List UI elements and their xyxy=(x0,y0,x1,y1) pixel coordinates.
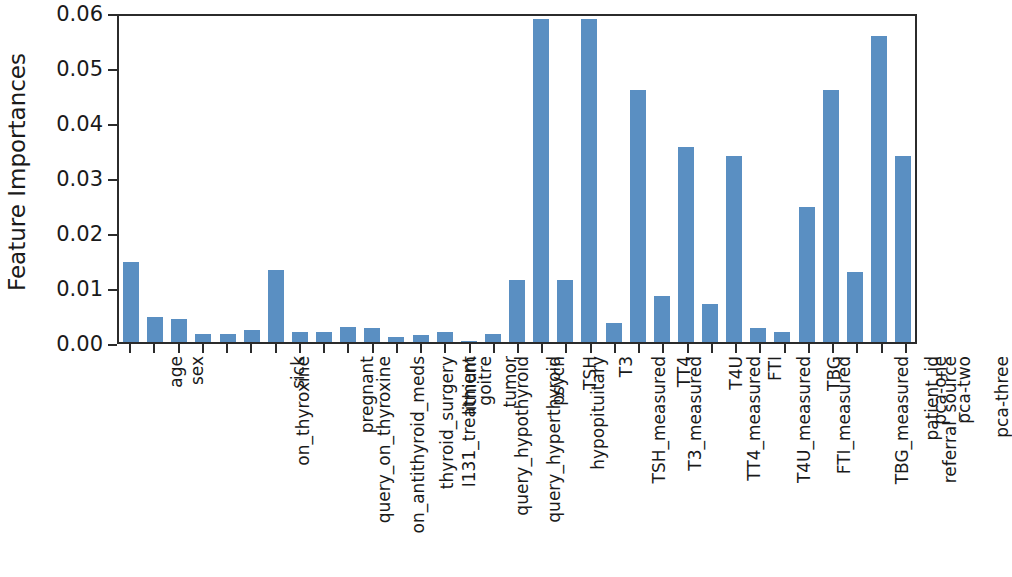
x-tick-mark xyxy=(881,344,883,353)
bar-slot xyxy=(529,16,553,342)
bar xyxy=(847,272,863,342)
bar-slot xyxy=(843,16,867,342)
bar-slot xyxy=(216,16,240,342)
x-tick-mark xyxy=(687,344,689,353)
bar xyxy=(244,330,260,342)
x-tick-mark xyxy=(202,344,204,353)
x-tick-label: on_antithyroid_meds xyxy=(411,356,428,533)
x-tick-mark xyxy=(541,344,543,353)
bar xyxy=(774,332,790,342)
x-tick-mark xyxy=(759,344,761,353)
y-tick-mark xyxy=(108,289,117,291)
x-tick-label: T3 xyxy=(618,356,635,377)
bar xyxy=(147,317,163,342)
x-tick-label: pregnant xyxy=(359,356,376,433)
y-tick-label: 0.05 xyxy=(18,57,103,81)
y-tick-mark xyxy=(108,124,117,126)
bar xyxy=(220,334,236,342)
x-tick-label: thyroid_surgery xyxy=(439,356,456,489)
x-tick-mark xyxy=(444,344,446,353)
bar-slot xyxy=(119,16,143,342)
bar xyxy=(123,262,139,342)
bar-slot xyxy=(674,16,698,342)
x-tick-label: T4U xyxy=(727,356,744,390)
y-tick-mark xyxy=(108,344,117,346)
bar xyxy=(799,207,815,342)
bar xyxy=(871,36,887,342)
bar-series xyxy=(119,16,915,342)
x-tick-label: TT4_measured xyxy=(746,356,763,481)
bar-slot xyxy=(795,16,819,342)
bar-slot xyxy=(360,16,384,342)
y-tick-label: 0.01 xyxy=(18,277,103,301)
bar xyxy=(654,296,670,342)
bar xyxy=(630,90,646,342)
x-tick-mark xyxy=(638,344,640,353)
bar xyxy=(364,328,380,342)
x-tick-label: FTI xyxy=(767,356,784,381)
bar-slot xyxy=(626,16,650,342)
y-tick-mark xyxy=(108,179,117,181)
x-tick-mark xyxy=(153,344,155,353)
x-tick-label: query_on_thyroxine xyxy=(376,356,393,523)
x-tick-mark xyxy=(347,344,349,353)
x-tick-mark xyxy=(275,344,277,353)
x-tick-mark xyxy=(808,344,810,353)
x-tick-mark xyxy=(493,344,495,353)
bar xyxy=(581,19,597,342)
x-tick-label: pca-three xyxy=(994,356,1011,438)
x-tick-label: goitre xyxy=(477,356,494,406)
bar xyxy=(340,327,356,342)
x-tick-label: TT4 xyxy=(677,356,694,387)
bar-slot xyxy=(553,16,577,342)
x-tick-label: TSH_measured xyxy=(651,356,668,483)
bar xyxy=(509,280,525,342)
x-tick-label: sex xyxy=(189,356,206,385)
bar-slot xyxy=(698,16,722,342)
x-tick-mark xyxy=(784,344,786,353)
bar xyxy=(606,323,622,342)
x-tick-mark xyxy=(178,344,180,353)
x-tick-mark xyxy=(614,344,616,353)
x-tick-label: psych xyxy=(550,356,567,406)
bar xyxy=(171,319,187,342)
bar xyxy=(485,334,501,342)
bar xyxy=(702,304,718,342)
x-tick-mark xyxy=(469,344,471,353)
y-tick-mark xyxy=(108,234,117,236)
bar xyxy=(678,147,694,342)
x-tick-mark xyxy=(250,344,252,353)
x-tick-mark xyxy=(711,344,713,353)
bar-slot xyxy=(384,16,408,342)
x-tick-label: tumor xyxy=(503,356,520,407)
bar xyxy=(195,334,211,342)
y-tick-label: 0.06 xyxy=(18,2,103,26)
x-tick-mark xyxy=(662,344,664,353)
x-tick-label: age xyxy=(168,356,185,388)
bar-slot xyxy=(819,16,843,342)
y-tick-label: 0.02 xyxy=(18,222,103,246)
y-tick-label: 0.00 xyxy=(18,332,103,356)
bar xyxy=(316,332,332,342)
bar-slot xyxy=(505,16,529,342)
x-tick-label: TSH xyxy=(582,356,599,390)
bar-slot xyxy=(770,16,794,342)
y-tick-label: 0.04 xyxy=(18,112,103,136)
x-tick-label: sick xyxy=(290,356,307,389)
bar-slot xyxy=(650,16,674,342)
bar-slot xyxy=(433,16,457,342)
x-tick-label: TBG_measured xyxy=(895,356,912,484)
x-tick-label: T4U_measured xyxy=(797,356,814,483)
bar xyxy=(461,341,477,342)
y-tick-mark xyxy=(108,69,117,71)
bar-slot xyxy=(264,16,288,342)
bar xyxy=(750,328,766,342)
x-tick-label: pca-one xyxy=(932,356,949,425)
x-tick-mark xyxy=(129,344,131,353)
y-tick-mark xyxy=(108,14,117,16)
bar-slot xyxy=(457,16,481,342)
bar-slot xyxy=(409,16,433,342)
bar-slot xyxy=(191,16,215,342)
bar-slot xyxy=(481,16,505,342)
